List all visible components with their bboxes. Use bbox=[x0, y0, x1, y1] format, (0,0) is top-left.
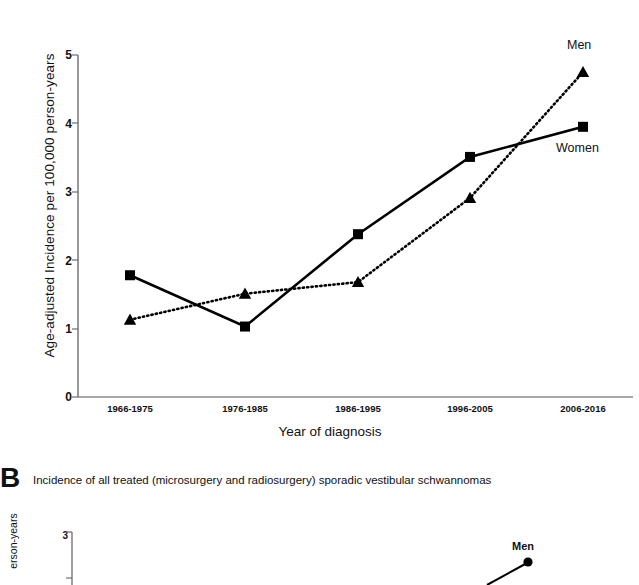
chart-plot-area bbox=[0, 0, 639, 460]
panel-b-chart: B Incidence of all treated (microsurgery… bbox=[0, 460, 639, 585]
panel-b-men-marker bbox=[523, 557, 532, 566]
data-point-women-2 bbox=[353, 229, 363, 239]
data-point-men-4 bbox=[577, 66, 589, 77]
panel-b-men-line bbox=[487, 563, 527, 585]
series-line-women bbox=[130, 127, 583, 327]
series-men bbox=[124, 66, 589, 325]
data-point-women-3 bbox=[465, 152, 475, 162]
y-axis-ticks bbox=[72, 55, 78, 397]
data-point-women-0 bbox=[125, 270, 135, 280]
panel-b-plot-area bbox=[0, 460, 639, 585]
data-point-women-1 bbox=[240, 322, 250, 332]
panel-a-chart: Age-adjusted Incidence per 100,000 perso… bbox=[0, 0, 639, 460]
series-women bbox=[125, 122, 588, 332]
data-point-women-4 bbox=[578, 122, 588, 132]
